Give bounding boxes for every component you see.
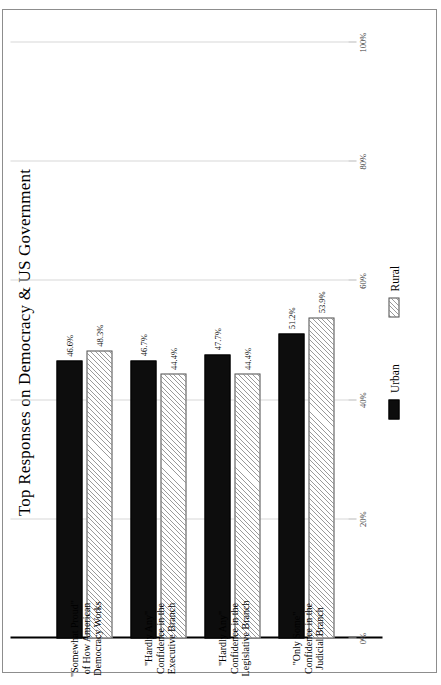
tick-mark-0 [348, 638, 356, 639]
bar-group: 46.7%44.4% [128, 43, 194, 639]
bar-value-rural: 53.9% [308, 291, 334, 313]
bar-group: 46.6%48.3% [54, 43, 120, 639]
tick-mark-20 [348, 518, 356, 519]
legend-label-rural: Rural [388, 266, 400, 292]
plot-area: 0% 20% 40% 60% 80% 100% 46.6%48.3%46.7%4… [48, 43, 348, 639]
tick-label-60: 60% [357, 273, 367, 289]
tick-label-80: 80% [357, 154, 367, 170]
category-label-line: "Hardly Any" [142, 559, 154, 685]
bar-value-urban: 51.2% [278, 307, 304, 329]
category-label-line: Confidence in the [228, 559, 240, 685]
category-label-line: "Only Some" [290, 559, 302, 685]
tick-mark-40 [348, 399, 356, 400]
bar-value-rural: 48.3% [86, 325, 112, 347]
tick-mark-60 [348, 280, 356, 281]
bar-group: 51.2%53.9% [276, 43, 342, 639]
tick-label-0: 0% [357, 633, 367, 644]
category-label-line: of How American [80, 559, 92, 685]
bar-value-rural: 44.4% [160, 348, 186, 370]
tick-mark-80 [348, 161, 356, 162]
category-label: "Hardly Any"Confidence in theExecutive B… [142, 559, 177, 685]
bar-value-urban: 46.7% [130, 334, 156, 356]
bar-chart: Top Responses on Democracy & US Governme… [4, 11, 437, 675]
category-label-line: "Hardly Any" [216, 559, 228, 685]
bar-value-urban: 47.7% [204, 328, 230, 350]
category-label-line: Democracy Works [91, 559, 103, 685]
category-label-line: Judicial Branch [313, 559, 325, 685]
tick-label-20: 20% [357, 512, 367, 528]
category-label-line: Confidence in the [302, 559, 314, 685]
legend-swatch-urban-icon [388, 399, 399, 419]
category-label-line: Executive Branch [165, 559, 177, 685]
chart-title: Top Responses on Democracy & US Governme… [14, 11, 34, 675]
tick-label-40: 40% [357, 392, 367, 408]
chart-legend: Urban Rural [388, 11, 400, 675]
category-label-line: "Somewhat Proud" [68, 559, 80, 685]
tick-mark-100 [348, 42, 356, 43]
bar-value-rural: 44.4% [234, 348, 260, 370]
bar-value-urban: 46.6% [56, 335, 82, 357]
category-label-line: Confidence in the [154, 559, 166, 685]
legend-item-rural[interactable]: Rural [388, 266, 400, 318]
legend-item-urban[interactable]: Urban [388, 364, 400, 419]
category-label-line: Legislative Branch [239, 559, 251, 685]
chart-rotation-wrapper: Top Responses on Democracy & US Governme… [0, 0, 441, 685]
bar-group: 47.7%44.4% [202, 43, 268, 639]
legend-label-urban: Urban [388, 364, 400, 393]
category-label: "Hardly Any"Confidence in theLegislative… [216, 559, 251, 685]
legend-swatch-rural-icon [388, 297, 399, 317]
category-label: "Somewhat Proud"of How AmericanDemocracy… [68, 559, 103, 685]
category-label: "Only Some"Confidence in theJudicial Bra… [290, 559, 325, 685]
tick-label-100: 100% [357, 33, 367, 53]
